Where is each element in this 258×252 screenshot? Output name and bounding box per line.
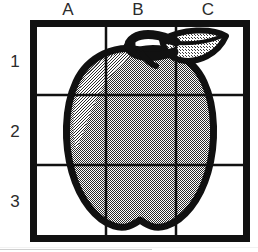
page-rule xyxy=(0,249,152,250)
apple-grid-figure: A B C 1 2 3 xyxy=(0,0,258,252)
column-label-a: A xyxy=(56,0,80,19)
row-label-2: 2 xyxy=(4,122,26,141)
grid-frame xyxy=(30,20,250,242)
grid-canvas xyxy=(30,20,250,242)
row-label-1: 1 xyxy=(4,52,26,71)
row-label-3: 3 xyxy=(4,192,26,211)
page-rule-faint xyxy=(0,247,258,248)
column-label-b: B xyxy=(126,0,150,19)
apple-body xyxy=(66,48,213,227)
column-label-c: C xyxy=(196,0,220,19)
